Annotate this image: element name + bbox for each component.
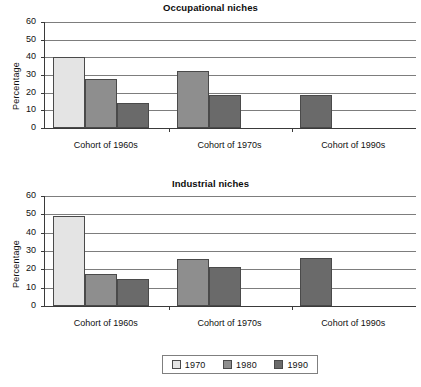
gridline: [45, 251, 416, 252]
y-axis-tick-label: 10: [14, 105, 36, 114]
y-axis-tick-mark: [41, 214, 45, 215]
y-axis-tick-label: 10: [14, 283, 36, 292]
y-axis-tick-mark: [41, 196, 45, 197]
y-axis-tick-mark: [41, 75, 45, 76]
y-axis-tick-label: 60: [14, 17, 36, 26]
y-axis-tick-mark: [41, 57, 45, 58]
x-axis-tick-mark: [169, 306, 170, 310]
y-axis-tick-label: 20: [14, 264, 36, 273]
bar-1980-cohort-of-1960s: [85, 79, 117, 128]
y-axis-tick-label: 50: [14, 35, 36, 44]
gridline: [45, 233, 416, 234]
x-axis-category-label: Cohort of 1990s: [291, 318, 415, 328]
bar-1970-cohort-of-1960s: [53, 216, 85, 306]
bar-1980-cohort-of-1960s: [85, 274, 117, 306]
y-axis-tick-label: 30: [14, 246, 36, 255]
y-axis-tick-label: 60: [14, 191, 36, 200]
chart-title-industrial: Industrial niches: [0, 178, 421, 189]
x-axis-baseline: [45, 128, 416, 129]
y-axis-tick-label: 20: [14, 88, 36, 97]
legend-swatch-icon: [223, 360, 232, 369]
bar-1990-cohort-of-1990s: [300, 258, 332, 306]
x-axis-tick-mark: [292, 128, 293, 132]
gridline: [45, 196, 416, 197]
bar-1990-cohort-of-1990s: [300, 95, 332, 128]
x-axis-category-label: Cohort of 1960s: [44, 140, 168, 150]
y-axis-tick-label: 30: [14, 70, 36, 79]
x-axis-category-label: Cohort of 1970s: [168, 140, 292, 150]
bar-1990-cohort-of-1960s: [117, 103, 149, 128]
gridline: [45, 22, 416, 23]
x-axis-baseline: [45, 306, 416, 307]
y-axis-tick-label: 40: [14, 228, 36, 237]
y-axis-tick-mark: [41, 251, 45, 252]
y-axis-tick-mark: [41, 288, 45, 289]
x-axis-tick-mark: [292, 306, 293, 310]
gridline: [45, 57, 416, 58]
y-axis-tick-mark: [41, 40, 45, 41]
legend-label: 1990: [287, 360, 308, 370]
bar-1990-cohort-of-1960s: [117, 279, 149, 307]
bar-1990-cohort-of-1970s: [209, 95, 241, 128]
gridline: [45, 214, 416, 215]
gridline: [45, 40, 416, 41]
chart-panel-industrial: Industrial niches Percentage 01020304050…: [0, 176, 421, 346]
plot-area-industrial: [44, 196, 415, 306]
legend-entry-1980: 1980: [223, 360, 257, 370]
y-axis-tick-mark: [41, 93, 45, 94]
y-axis-tick-mark: [41, 110, 45, 111]
chart-legend: 197019801990: [162, 355, 318, 374]
y-axis-tick-mark: [41, 306, 45, 307]
x-axis-tick-mark: [169, 128, 170, 132]
y-axis-tick-mark: [41, 269, 45, 270]
bar-1980-cohort-of-1970s: [177, 259, 209, 306]
gridline: [45, 75, 416, 76]
plot-area-occupational: [44, 22, 415, 128]
legend-swatch-icon: [274, 360, 283, 369]
legend-entry-1990: 1990: [274, 360, 308, 370]
bar-1980-cohort-of-1970s: [177, 71, 209, 128]
y-axis-tick-label: 0: [14, 301, 36, 310]
y-axis-tick-label: 50: [14, 209, 36, 218]
legend-entry-1970: 1970: [172, 360, 206, 370]
y-axis-tick-mark: [41, 22, 45, 23]
x-axis-category-label: Cohort of 1970s: [168, 318, 292, 328]
y-axis-tick-label: 40: [14, 52, 36, 61]
y-axis-tick-mark: [41, 128, 45, 129]
legend-label: 1980: [236, 360, 257, 370]
bar-1990-cohort-of-1970s: [209, 267, 241, 306]
legend-swatch-icon: [172, 360, 181, 369]
y-axis-tick-label: 0: [14, 123, 36, 132]
legend-label: 1970: [185, 360, 206, 370]
x-axis-category-label: Cohort of 1960s: [44, 318, 168, 328]
chart-panel-occupational: Occupational niches Percentage 010203040…: [0, 0, 421, 176]
chart-title-occupational: Occupational niches: [0, 2, 421, 13]
y-axis-tick-mark: [41, 233, 45, 234]
x-axis-category-label: Cohort of 1990s: [291, 140, 415, 150]
bar-1970-cohort-of-1960s: [53, 57, 85, 128]
